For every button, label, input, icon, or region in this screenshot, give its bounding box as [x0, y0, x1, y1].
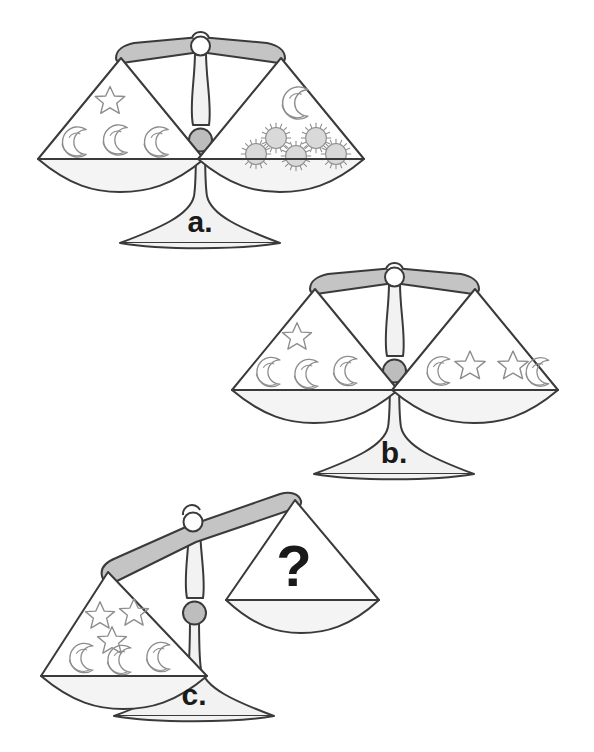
symbol-sun-icon	[301, 123, 331, 153]
scale-c-pivot-knob	[183, 602, 206, 625]
scale-c: ? c.	[41, 493, 379, 721]
scale-b-left-pan[interactable]	[232, 289, 398, 423]
question-mark-icon: ?	[276, 533, 311, 598]
scale-b-column	[386, 283, 404, 356]
scale-a: a.	[38, 32, 364, 248]
symbol-sun-icon	[281, 141, 311, 171]
scale-c-label: c.	[181, 678, 206, 711]
symbol-sun-icon	[241, 139, 271, 169]
scale-a-column	[192, 52, 210, 125]
scale-b-right-pan[interactable]	[392, 289, 558, 423]
scale-a-label: a.	[187, 205, 212, 238]
scale-a-right-pan[interactable]	[198, 58, 364, 192]
symbol-sun-icon	[321, 139, 351, 169]
puzzle-canvas: a.	[0, 0, 594, 752]
scale-b: b.	[232, 263, 558, 479]
scale-b-label: b.	[381, 436, 408, 469]
symbol-sun-icon	[261, 123, 291, 153]
scale-a-left-pan[interactable]	[38, 58, 204, 192]
